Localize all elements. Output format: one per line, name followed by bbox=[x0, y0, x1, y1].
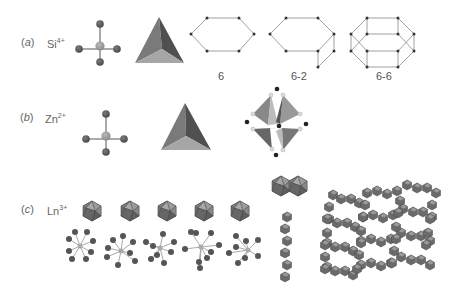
si-tetrahedron bbox=[135, 17, 184, 63]
ring-6-6-diagram bbox=[351, 18, 414, 67]
ln-chain bbox=[281, 212, 292, 282]
si-ball-stick-model bbox=[75, 20, 121, 66]
ring-6-2-diagram bbox=[270, 18, 334, 67]
ln-ball-stick-models bbox=[66, 229, 261, 271]
ln-dimer bbox=[272, 176, 307, 196]
ring-6-diagram bbox=[191, 18, 254, 51]
zn-ball-stick-model bbox=[82, 110, 128, 156]
figure-canvas bbox=[0, 0, 450, 294]
ln-coordination-polyhedra bbox=[83, 201, 249, 221]
zn-tetrahedron bbox=[161, 103, 211, 150]
ln-framework bbox=[321, 180, 441, 280]
zn-tetrahedral-cluster bbox=[245, 87, 309, 158]
